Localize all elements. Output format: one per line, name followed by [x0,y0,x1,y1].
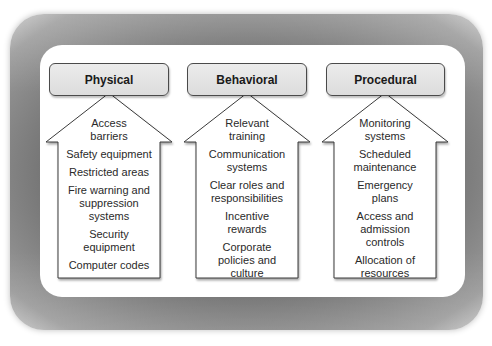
list-item: Access and admission controls [334,210,436,249]
list-item: Monitoring systems [334,117,436,143]
column-title: Procedural [354,73,417,87]
list-item: Allocation of resources [334,254,436,280]
header-procedural: Procedural [326,63,445,96]
list-item: Scheduled maintenance [334,148,436,174]
list-item: Emergency plans [334,179,436,205]
items-procedural: Monitoring systems Scheduled maintenance… [334,117,436,285]
